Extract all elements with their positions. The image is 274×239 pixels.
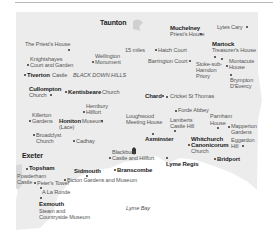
marker-dot <box>221 58 223 60</box>
label-blackdown-hills: BLACK DOWN HILLS <box>73 72 126 78</box>
label-kentisbeare[interactable]: Kentisbeare <box>68 89 101 95</box>
label-tiverton[interactable]: Tiverton <box>27 72 50 78</box>
marker-dot <box>34 182 36 184</box>
label-miles: 15 miles <box>125 47 145 53</box>
label-tiverton-sub: Castle <box>52 72 67 78</box>
label-priests-house[interactable]: The Priest's House <box>25 41 70 47</box>
label-bicton[interactable]: Bicton Gardens and Museum <box>67 177 137 183</box>
marker-dot <box>246 26 248 28</box>
marker-dot <box>73 140 75 142</box>
marker-dot <box>242 145 244 147</box>
label-branscombe[interactable]: Branscombe <box>117 167 152 173</box>
label-mapperton-2: Gardens <box>231 129 252 135</box>
marker-dot <box>92 61 94 63</box>
label-loughwood-2: Meeting House <box>126 119 162 125</box>
label-barrington[interactable]: Barrington Court <box>148 58 187 64</box>
marker-dot <box>162 95 164 97</box>
label-axminster[interactable]: Axminster <box>145 136 173 142</box>
marker-dot <box>40 197 42 199</box>
label-exmouth[interactable]: Exmouth <box>39 201 64 207</box>
marker-dot <box>200 33 202 35</box>
label-whitchurch-3: Church <box>191 148 208 154</box>
label-sidmouth[interactable]: Sidmouth <box>74 168 101 174</box>
marker-dot <box>188 144 190 146</box>
label-broadclyst-2: Church <box>36 138 53 144</box>
label-blackbury-2: Castle and Hillfort <box>112 155 154 161</box>
marker-dot <box>33 134 35 136</box>
marker-dot <box>189 60 191 62</box>
marker-dot <box>217 127 219 129</box>
label-hatch-court[interactable]: Hatch Court <box>158 47 187 53</box>
label-brympton-2: D'Evercy <box>230 83 251 89</box>
marker-dot <box>109 157 111 159</box>
label-taunton[interactable]: Taunton <box>100 19 126 26</box>
marker-dot <box>175 110 177 112</box>
label-bridport[interactable]: Bridport <box>217 156 240 162</box>
label-lace: (Lace) <box>59 124 74 130</box>
label-lytes-cary[interactable]: Lytes Cary <box>217 24 243 30</box>
label-lamberts-2: Castle Hill <box>170 123 194 129</box>
label-martock-sub: Treasurer's House <box>212 47 256 53</box>
label-topsham[interactable]: Topsham <box>29 165 55 171</box>
marker-dot <box>174 130 176 132</box>
map[interactable]: Taunton Muchelney Priest's House Lytes C… <box>0 0 274 239</box>
marker-dot <box>83 111 85 113</box>
label-powderham-2: Castle <box>17 179 32 185</box>
label-a-la-ronde[interactable]: A La Ronde <box>42 189 70 195</box>
label-forde-abbey[interactable]: Forde Abbey <box>178 107 209 113</box>
label-lyme-regis[interactable]: Lyme Regis <box>166 161 198 167</box>
marker-dot <box>228 126 230 128</box>
label-cullompton-sub: Church <box>29 92 46 98</box>
label-montacute-2: House <box>229 64 245 70</box>
marker-dot <box>214 158 216 160</box>
label-eggardon-2: Hill <box>231 143 238 149</box>
marker-dot <box>26 168 28 170</box>
label-exeter[interactable]: Exeter <box>22 152 43 159</box>
label-honiton-sub: Museum <box>82 118 103 124</box>
marker-dot <box>155 49 157 51</box>
marker-dot <box>24 74 26 76</box>
marker-dot <box>65 91 67 93</box>
label-kentisbeare-sub: Church <box>102 89 119 95</box>
label-cadhay[interactable]: Cadhay <box>76 138 95 144</box>
label-chard[interactable]: Chard <box>145 93 162 99</box>
label-exmouth-sub-2: Countryside Museum <box>39 214 90 220</box>
label-knightshayes-2: Court and Garden <box>30 62 73 68</box>
marker-dot <box>226 65 228 67</box>
marker-dot <box>27 64 29 66</box>
label-parnham-1[interactable]: Parnham <box>210 113 232 119</box>
marker-dot <box>214 56 216 58</box>
marker-dot <box>101 120 103 122</box>
marker-dot <box>64 179 66 181</box>
label-killerton-2: Gardens <box>32 118 53 124</box>
marker-dot <box>68 49 70 51</box>
marker-dot <box>166 96 168 98</box>
marker-dot <box>50 94 52 96</box>
marker-dot <box>152 133 154 135</box>
label-lyme-bay: Lyme Bay <box>126 205 150 211</box>
marker-dot <box>114 169 116 171</box>
label-wellington-2: Monument <box>95 59 121 65</box>
marker-dot <box>166 157 168 159</box>
label-stoke-3: Priory <box>196 73 210 79</box>
marker-dot <box>230 74 232 76</box>
label-hembury-2: Hillfort <box>86 109 101 115</box>
label-cricket-st-thomas[interactable]: Cricket St Thomas <box>170 93 214 99</box>
label-parnham-2: House <box>210 120 226 126</box>
marker-dot <box>29 120 31 122</box>
